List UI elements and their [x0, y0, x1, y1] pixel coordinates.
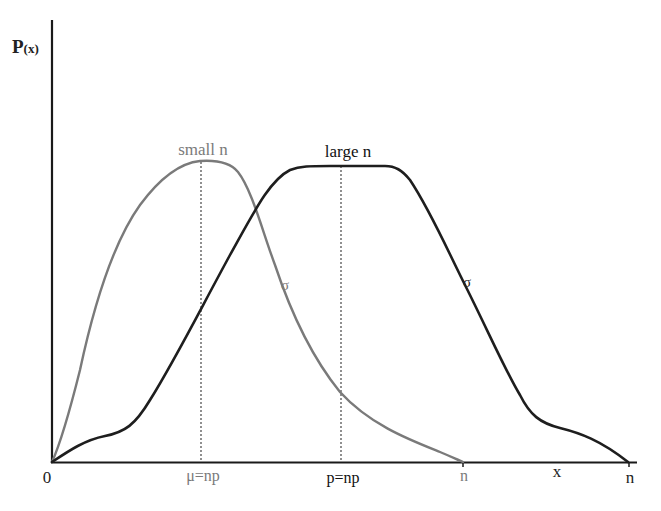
p-np-label: p=np	[326, 469, 359, 487]
n-small-label: n	[460, 467, 468, 484]
sigma-small-n-label: σ	[281, 277, 289, 293]
curve-large-n	[52, 166, 628, 462]
origin-label: 0	[43, 468, 52, 487]
x-variable-label: x	[553, 462, 562, 481]
large-n-label: large n	[325, 142, 372, 161]
binomial-distribution-diagram: P(x) small n large n σ σ 0 μ=np p=np n x…	[0, 0, 661, 511]
n-large-label: n	[626, 468, 635, 487]
y-axis-label-sub: (x)	[24, 41, 39, 56]
y-axis-label-main: P	[12, 36, 24, 57]
mu-np-label: μ=np	[186, 467, 220, 485]
sigma-large-n-label: σ	[463, 274, 471, 290]
small-n-label: small n	[178, 140, 228, 159]
y-axis-label: P(x)	[12, 36, 39, 57]
